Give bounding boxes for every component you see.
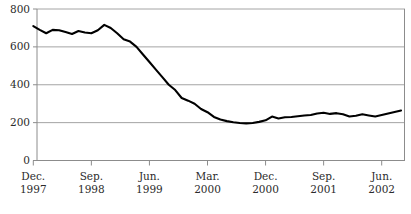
x-axis-ticks	[33, 161, 381, 166]
x-tick-label-month-5: Sep.	[312, 170, 335, 182]
line-chart: 0200400600800 Dec.1997Sep.1998Jun.1999Ma…	[0, 0, 411, 214]
data-series-line	[33, 25, 401, 123]
x-tick-label-year-2: 1999	[136, 183, 163, 195]
x-tick-label-month-3: Mar.	[195, 170, 219, 182]
x-tick-label-year-4: 2000	[252, 183, 279, 195]
y-axis-ticks	[33, 9, 37, 161]
x-tick-label-month-1: Sep.	[80, 170, 103, 182]
x-tick-label-month-6: Jun.	[370, 170, 392, 182]
x-tick-label-year-6: 2002	[368, 183, 395, 195]
y-tick-label-0: 0	[23, 154, 30, 166]
x-tick-label-month-2: Jun.	[138, 170, 160, 182]
x-tick-label-year-5: 2001	[310, 183, 337, 195]
y-tick-label-400: 400	[10, 78, 30, 90]
y-tick-label-200: 200	[10, 116, 30, 128]
y-tick-label-600: 600	[10, 40, 30, 52]
gridlines	[37, 9, 405, 123]
x-tick-label-year-3: 2000	[194, 183, 221, 195]
x-tick-label-month-0: Dec.	[21, 170, 45, 182]
x-tick-label-year-0: 1997	[20, 183, 47, 195]
x-tick-labels: Dec.1997Sep.1998Jun.1999Mar.2000Dec.2000…	[20, 170, 395, 195]
x-tick-label-year-1: 1998	[78, 183, 105, 195]
y-tick-label-800: 800	[10, 3, 30, 15]
x-tick-label-month-4: Dec.	[254, 170, 278, 182]
chart-canvas: 0200400600800 Dec.1997Sep.1998Jun.1999Ma…	[0, 0, 411, 214]
y-tick-labels: 0200400600800	[10, 3, 30, 167]
